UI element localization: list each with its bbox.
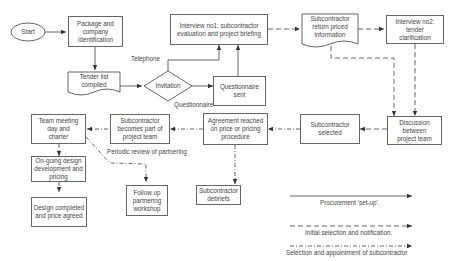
node-team-meeting: Team meeting day and charter [31, 114, 86, 144]
node-start: Start [11, 23, 45, 41]
node-interview-1: Interview no1: subcontractor evaluation … [170, 14, 268, 45]
node-follow-up: Follow up partnering workshop [126, 185, 168, 216]
node-discussion: Discussion between project team [387, 116, 442, 145]
node-subcontractor-debriefs: Subcontractor debriefs [196, 185, 241, 205]
edge-label-questionnaire: Questionnaire [174, 101, 213, 109]
node-return-priced: Subcontractor return priced information [303, 14, 357, 40]
node-agreement: Agreement reached on price or pricing pr… [203, 113, 268, 145]
node-ongoing-design: On-going design development and pricing [31, 156, 86, 182]
edge-label-periodic-review: Periodic review of partnering [107, 148, 187, 156]
legend-label-solid: Procurement 'set-up'. [320, 199, 379, 207]
node-interview-2: Interview no2: tender clarification [386, 15, 444, 44]
node-design-completed: Design completed and price agreed [31, 197, 87, 227]
node-subcontractor-selected: Subcontractor selected [300, 114, 360, 144]
legend-label-dashed: Initial selection and notification. [305, 229, 392, 237]
node-package-identification: Package and company identification [68, 16, 123, 47]
edge-label-telephone: Telephone [131, 55, 160, 63]
node-questionnaire-sent: Questionnaire sent [213, 76, 266, 106]
node-invitation: Invitation [148, 80, 188, 92]
node-becomes-part: Subcontractor becomes part of project te… [110, 114, 170, 144]
node-tender-list: Tender list compiled [70, 72, 118, 90]
legend-label-dashdot: Selection and appointment of subcontract… [286, 249, 407, 257]
